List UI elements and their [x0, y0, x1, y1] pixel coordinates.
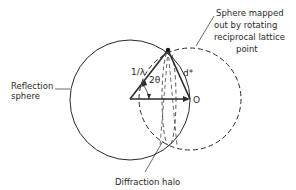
origin-label: O — [193, 95, 200, 105]
diffraction-diagram: Reflection sphere Sphere mapped out by r… — [0, 0, 296, 190]
diffraction-halo-label: Diffraction halo — [115, 177, 180, 187]
reflection-sphere-label: Reflection — [11, 81, 53, 91]
mapped-sphere-label: Sphere mapped — [216, 8, 284, 18]
leader-line — [196, 16, 214, 46]
mapped-sphere-label: out by rotating — [214, 20, 277, 30]
angle-label: 2θ — [149, 75, 161, 85]
lattice-point — [166, 48, 170, 52]
arrowhead-icon — [147, 94, 151, 99]
reflection-sphere-label: sphere — [11, 91, 40, 101]
leader-line — [145, 141, 163, 172]
wavevector-label: 1/λ — [131, 67, 146, 77]
reciprocal-vector-label: d* — [183, 68, 194, 78]
mapped-sphere-label: reciprocal lattice — [214, 32, 285, 42]
mapped-sphere-label: point — [236, 44, 258, 54]
